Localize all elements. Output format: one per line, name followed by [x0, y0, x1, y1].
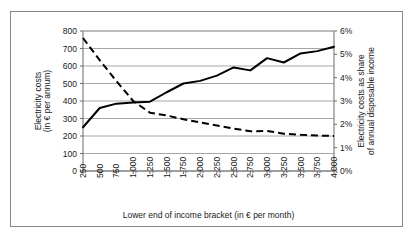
series-line-share	[83, 38, 334, 136]
x-axis-tick-label: 2,000	[195, 156, 205, 178]
x-axis-title: Lower end of income bracket (in € per mo…	[123, 210, 295, 220]
x-axis-tick-label: 4,000	[329, 156, 339, 178]
y2-axis-title-line2: of annual disposable income	[366, 47, 376, 155]
x-axis-tick-label: 2,500	[229, 156, 239, 178]
y2-axis-tick-label: 4%	[340, 73, 353, 83]
y-axis-tick-label: 0	[72, 166, 77, 176]
x-axis-tick-label: 1,000	[128, 156, 138, 178]
y-axis-tick-label: 700	[63, 44, 77, 54]
y-axis-title-line2: (in € per annum)	[42, 70, 52, 133]
chart-figure: 01002003004005006007008000%1%2%3%4%5%6%2…	[10, 11, 403, 227]
y-axis-tick-label: 200	[63, 131, 77, 141]
y-axis-tick-label: 800	[63, 26, 77, 36]
x-axis-tick-label: 1,250	[145, 156, 155, 178]
x-axis-tick-label: 1,500	[162, 156, 172, 178]
y-axis-tick-label: 400	[63, 96, 77, 106]
x-axis-tick-label: 3,750	[312, 156, 322, 178]
y2-axis-tick-label: 0%	[340, 166, 353, 176]
x-axis-tick-label: 3,000	[262, 156, 272, 178]
chart-canvas: 01002003004005006007008000%1%2%3%4%5%6%2…	[11, 12, 402, 226]
x-axis-tick-label: 500	[95, 164, 105, 178]
x-axis-tick-label: 2,250	[212, 156, 222, 178]
x-axis-tick-label: 1,750	[178, 156, 188, 178]
y2-axis-tick-label: 6%	[340, 26, 353, 36]
x-axis-tick-label: 2,750	[245, 156, 255, 178]
y2-axis-title-line1: Electricity costs as share	[356, 54, 366, 148]
y2-axis-tick-label: 3%	[340, 96, 353, 106]
x-axis-tick-label: 3,250	[279, 156, 289, 178]
y2-axis-tick-label: 1%	[340, 143, 353, 153]
y2-axis-tick-label: 2%	[340, 119, 353, 129]
y2-axis-tick-label: 5%	[340, 49, 353, 59]
x-axis-tick-label: 3,500	[296, 156, 306, 178]
y-axis-tick-label: 500	[63, 79, 77, 89]
y-axis-tick-label: 100	[63, 149, 77, 159]
y-axis-tick-label: 600	[63, 61, 77, 71]
y-axis-tick-label: 300	[63, 114, 77, 124]
x-axis-tick-label: 750	[111, 164, 121, 178]
x-axis-tick-label: 250	[78, 164, 88, 178]
